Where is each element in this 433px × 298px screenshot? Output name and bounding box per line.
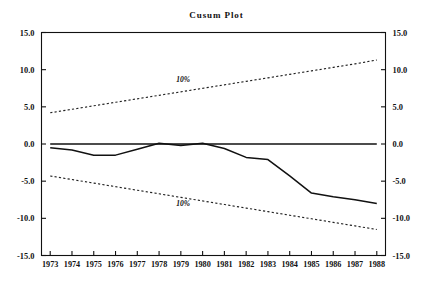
y-axis-label-left: 15.0 xyxy=(20,29,35,38)
x-axis-label: 1981 xyxy=(216,260,232,269)
y-axis-label-right: -5.0 xyxy=(393,177,406,186)
x-axis-label: 1979 xyxy=(173,260,189,269)
y-axis-label-left: -10.0 xyxy=(17,214,34,223)
y-axis-label-left: 10.0 xyxy=(20,66,35,75)
upper-band-label: 10% xyxy=(176,75,190,84)
y-axis-label-right: 10.0 xyxy=(393,66,408,75)
x-axis-label: 1986 xyxy=(325,260,341,269)
x-axis-label: 1984 xyxy=(282,260,298,269)
x-axis-label: 1985 xyxy=(303,260,319,269)
lower-band-label: 10% xyxy=(176,199,190,208)
y-axis-label-left: -15.0 xyxy=(17,252,34,261)
series-cusum xyxy=(50,143,377,203)
cusum-plot-figure: Cusum Plot 15.015.010.010.05.05.00.00.0-… xyxy=(0,0,433,298)
x-axis-label: 1980 xyxy=(194,260,210,269)
series-lower-10-boundary xyxy=(50,176,377,230)
x-axis-label: 1978 xyxy=(151,260,167,269)
y-axis-label-right: -10.0 xyxy=(393,214,410,223)
y-axis-label-left: 0.0 xyxy=(24,140,34,149)
series-upper-10-boundary xyxy=(50,60,377,113)
data-series xyxy=(50,60,377,229)
chart-annotations: 10%10% xyxy=(176,75,190,208)
y-axis-label-right: -15.0 xyxy=(393,252,410,261)
x-axis-label: 1982 xyxy=(238,260,254,269)
x-axis-label: 1983 xyxy=(260,260,276,269)
x-axis-label: 1975 xyxy=(86,260,102,269)
x-axis-label: 1987 xyxy=(347,260,363,269)
y-axis-label-left: -5.0 xyxy=(21,177,34,186)
x-axis-label: 1973 xyxy=(42,260,58,269)
x-axis-label: 1977 xyxy=(129,260,145,269)
x-axis-label: 1988 xyxy=(369,260,385,269)
x-axis-label: 1974 xyxy=(64,260,80,269)
y-axis-label-right: 0.0 xyxy=(393,140,403,149)
chart-canvas: 15.015.010.010.05.05.00.00.0-5.0-5.0-10.… xyxy=(0,0,433,298)
y-axis-label-left: 5.0 xyxy=(24,103,34,112)
y-axis-label-right: 5.0 xyxy=(393,103,403,112)
y-axis-label-right: 15.0 xyxy=(393,29,408,38)
x-axis-label: 1976 xyxy=(107,260,123,269)
